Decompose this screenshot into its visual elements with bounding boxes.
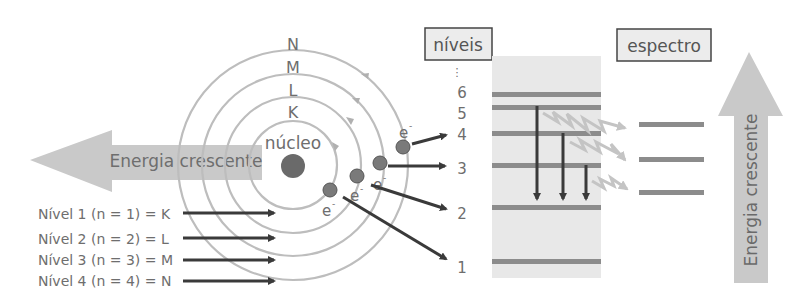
legend-item-4: Nível 4 (n = 4) = N xyxy=(38,273,171,289)
nucleus: núcleo xyxy=(265,133,321,178)
level-legend: Nível 1 (n = 1) = K Nível 2 (n = 2) = L … xyxy=(38,206,274,289)
electron-k xyxy=(323,183,337,197)
arrow-to-level-2 xyxy=(371,185,446,209)
electron-label: e xyxy=(399,124,408,142)
electron-l xyxy=(350,169,364,183)
electron-n xyxy=(396,140,410,154)
level-number-1: 1 xyxy=(457,259,467,277)
orbit-label-n: N xyxy=(287,35,299,54)
level-number-3: 3 xyxy=(457,160,467,178)
energy-arrow-right: Energia crescente xyxy=(718,52,783,283)
orbit-label-l: L xyxy=(289,81,298,100)
legend-item-2: Nível 2 (n = 2) = L xyxy=(38,231,169,247)
energy-level-panel xyxy=(492,56,627,278)
nucleus-circle xyxy=(281,154,305,178)
orbit-label-k: K xyxy=(288,103,299,122)
electrons: e - e - e - e - xyxy=(322,121,412,220)
legend-item-1: Nível 1 (n = 1) = K xyxy=(38,206,171,222)
nucleus-label: núcleo xyxy=(265,133,321,153)
spectrum-line-1 xyxy=(639,122,704,127)
level-number-4: 4 xyxy=(457,126,467,144)
energy-level-5 xyxy=(492,105,601,110)
levels-header: níveis ⋮ xyxy=(425,28,492,79)
energy-level-2 xyxy=(492,205,601,210)
electron-m xyxy=(373,156,387,170)
electron-label: e xyxy=(322,202,331,220)
svg-text:-: - xyxy=(409,121,412,131)
level-numbers: 6 5 4 3 2 1 xyxy=(457,84,467,277)
level-number-6: 6 xyxy=(457,84,467,102)
energy-arrow-left-label: Energia crescente xyxy=(110,151,263,171)
spectrum-header: espectro xyxy=(617,29,711,61)
level-number-2: 2 xyxy=(457,205,467,223)
levels-ellipsis: ⋮ xyxy=(452,66,463,79)
bohr-atom-diagram: Energia crescente N M L K núcleo e - e -… xyxy=(0,0,801,308)
energy-level-6 xyxy=(492,92,601,97)
energy-level-4 xyxy=(492,131,601,136)
svg-text:-: - xyxy=(383,173,386,183)
legend-item-3: Nível 3 (n = 3) = M xyxy=(38,252,173,268)
svg-text:-: - xyxy=(332,199,335,209)
levels-box-label: níveis xyxy=(433,35,483,55)
energy-level-1 xyxy=(492,259,601,264)
level-number-5: 5 xyxy=(457,105,467,123)
spectrum-line-3 xyxy=(639,190,704,195)
orbit-direction-arrow-icon xyxy=(361,73,369,79)
energy-arrow-right-label: Energia crescente xyxy=(741,114,761,267)
spectrum-line-2 xyxy=(639,157,704,162)
spectrum-lines xyxy=(639,122,704,195)
orbit-label-m: M xyxy=(286,58,300,77)
arrow-to-level-4 xyxy=(412,135,446,144)
orbit-labels: N M L K xyxy=(286,35,300,122)
spectrum-box-label: espectro xyxy=(627,36,701,56)
svg-text:-: - xyxy=(360,184,363,194)
